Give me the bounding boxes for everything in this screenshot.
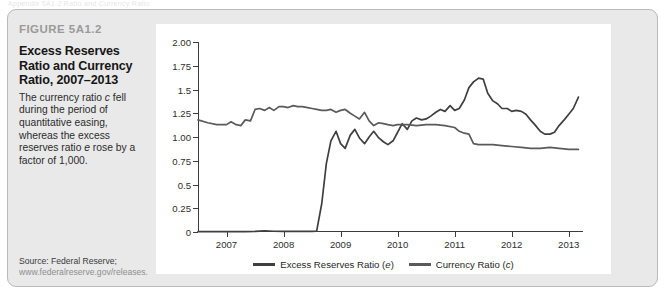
legend-label: Excess Reserves Ratio (e) [280, 259, 394, 270]
legend-item[interactable]: Currency Ratio (c) [409, 259, 514, 270]
series-lines [198, 42, 583, 232]
y-tick-label: 0.75 [172, 155, 191, 166]
source-block: Source: Federal Reserve; www.federalrese… [19, 256, 151, 277]
source-url[interactable]: www.federalreserve.gov/releases. [19, 267, 151, 277]
page-bleed-text: Appendix 5A1.2 Ratio and Currency Ratio [8, 0, 248, 8]
description-part-1: The currency ratio [19, 92, 105, 103]
y-tick-label: 1.25 [172, 108, 191, 119]
chart-legend: Excess Reserves Ratio (e)Currency Ratio … [156, 259, 611, 270]
y-tick-label: 1.00 [172, 132, 191, 143]
x-tick-label: 2009 [330, 239, 351, 250]
legend-item[interactable]: Excess Reserves Ratio (e) [253, 259, 394, 270]
x-tick-label: 2007 [216, 239, 237, 250]
legend-label: Currency Ratio (c) [436, 259, 514, 270]
x-tick-label: 2012 [501, 239, 522, 250]
x-tick-mark [284, 232, 285, 237]
y-tick-mark [193, 232, 198, 233]
figure-card: FIGURE 5A1.2 Excess Reserves Ratio and C… [7, 9, 658, 287]
legend-swatch [253, 263, 275, 265]
y-tick-label: 1.75 [172, 60, 191, 71]
x-tick-mark [398, 232, 399, 237]
y-tick-label: 2.00 [172, 37, 191, 48]
source-label: Source: Federal Reserve; [19, 256, 151, 266]
y-tick-label: 0 [186, 227, 191, 238]
series-line [198, 78, 578, 232]
y-tick-label: 1.5 [178, 84, 191, 95]
x-tick-label: 2011 [444, 239, 465, 250]
figure-description: The currency ratio c fell during the per… [19, 92, 146, 168]
figure-number-label: FIGURE 5A1.2 [19, 23, 146, 35]
x-tick-mark [227, 232, 228, 237]
plot-panel: 00.250.50.751.001.251.51.752.00 20072008… [156, 24, 611, 274]
figure-page: Appendix 5A1.2 Ratio and Currency Ratio … [0, 0, 666, 294]
x-tick-label: 2010 [387, 239, 408, 250]
y-tick-label: 0.25 [172, 203, 191, 214]
x-tick-label: 2008 [273, 239, 294, 250]
x-tick-label: 2013 [558, 239, 579, 250]
figure-title: Excess Reserves Ratio and Currency Ratio… [19, 44, 146, 88]
y-tick-label: 0.5 [178, 179, 191, 190]
legend-swatch [409, 263, 431, 265]
figure-caption-column: FIGURE 5A1.2 Excess Reserves Ratio and C… [8, 10, 156, 286]
x-tick-mark [512, 232, 513, 237]
x-tick-mark [341, 232, 342, 237]
plot-area: 00.250.50.751.001.251.51.752.00 20072008… [198, 42, 583, 232]
x-tick-mark [569, 232, 570, 237]
x-tick-mark [455, 232, 456, 237]
